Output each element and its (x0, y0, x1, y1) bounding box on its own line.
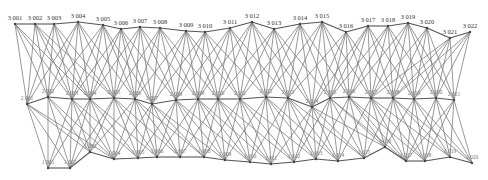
node-1007 (179, 156, 181, 158)
node-1006 (156, 156, 158, 158)
member-edge (48, 25, 103, 97)
node-3008 (159, 27, 161, 29)
chord-edge (436, 98, 454, 100)
node-label: 1 005 (132, 149, 145, 155)
node-label: 3 009 (179, 21, 194, 28)
node-1011 (270, 163, 272, 165)
member-edge (349, 26, 368, 97)
node-label: 1 001 (42, 159, 55, 165)
chord-edge (393, 98, 414, 99)
node-label: 1 007 (174, 148, 187, 154)
node-3017 (367, 25, 369, 27)
node-3019 (407, 22, 409, 24)
node-label: 3 013 (267, 19, 282, 26)
node-3020 (426, 27, 428, 29)
node-label: 1 012 (288, 153, 301, 159)
node-2021 (453, 99, 455, 101)
node-label: 3 006 (114, 19, 129, 26)
node-label: 2 017 (365, 89, 378, 95)
node-label: 3 018 (381, 16, 396, 23)
chord-edge (300, 22, 322, 24)
node-1015 (363, 157, 365, 159)
chord-edge (330, 97, 349, 98)
chord-edge (240, 97, 266, 99)
member-edge (218, 28, 230, 99)
node-1004 (113, 158, 115, 160)
node-3011 (229, 27, 231, 29)
node-label: 1 020 (466, 154, 479, 160)
node-label: 2 005 (108, 89, 121, 95)
node-2002 (47, 96, 49, 98)
chord-edge (225, 160, 250, 162)
node-2006 (134, 98, 136, 100)
node-1001 (47, 167, 49, 169)
node-label: 3 020 (420, 18, 435, 25)
node-label: 3 004 (71, 12, 86, 19)
member-edge (288, 98, 364, 158)
node-1014 (337, 160, 339, 162)
chord-edge (140, 27, 160, 28)
node-label: 2 021 (448, 91, 461, 97)
chord-edge (121, 27, 140, 29)
member-edge (121, 29, 135, 99)
node-1010 (249, 161, 251, 163)
node-label: 1 014 (332, 152, 345, 158)
node-2003 (71, 98, 73, 100)
chord-edge (271, 162, 294, 164)
node-2017 (370, 97, 372, 99)
node-label: 3 005 (96, 15, 111, 22)
node-3013 (273, 28, 275, 30)
node-label: 3 008 (153, 18, 168, 25)
node-3001 (14, 23, 16, 25)
chord-edge (349, 97, 371, 98)
member-edge (186, 31, 198, 99)
node-1013 (315, 158, 317, 160)
node-1012 (293, 161, 295, 163)
node-label: 1 015 (358, 149, 371, 155)
node-label: 3 022 (463, 22, 478, 29)
node-label: 2 018 (387, 89, 400, 95)
node-2018 (392, 97, 394, 99)
node-label: 3 003 (47, 14, 62, 21)
node-label: 3 016 (339, 22, 354, 29)
chord-edge (250, 162, 271, 164)
chord-edge (114, 158, 138, 159)
node-3005 (102, 24, 104, 26)
member-edge (266, 22, 322, 97)
node-label: 2 001 (21, 95, 34, 101)
node-2010 (217, 98, 219, 100)
node-3006 (120, 28, 122, 30)
node-3004 (77, 21, 79, 23)
node-label: 2 020 (430, 89, 443, 95)
node-2008 (175, 99, 177, 101)
node-3012 (251, 21, 253, 23)
chord-edge (54, 22, 78, 24)
node-label: 2 009 (192, 90, 205, 96)
member-edge (15, 24, 27, 104)
node-label: 1 018 (419, 152, 432, 158)
node-label: 3 019 (401, 13, 416, 20)
node-3016 (345, 31, 347, 33)
node-label: 3 015 (315, 12, 330, 19)
chord-edge (138, 157, 157, 158)
node-2020 (435, 97, 437, 99)
chord-edge (186, 31, 205, 32)
node-label: 2 012 (260, 88, 273, 94)
node-label: 2 019 (408, 90, 421, 96)
node-label: 1 003 (84, 143, 97, 149)
node-2005 (113, 97, 115, 99)
chord-edge (316, 159, 338, 161)
node-label: 3 001 (8, 14, 23, 21)
chord-edge (78, 22, 103, 25)
member-edge (274, 29, 288, 98)
node-2011 (239, 98, 241, 100)
chord-edge (388, 23, 408, 26)
node-2001 (26, 103, 28, 105)
node-label: 2 002 (42, 88, 55, 94)
chord-edge (414, 98, 436, 99)
node-3021 (449, 37, 451, 39)
node-1016 (384, 146, 386, 148)
node-label: 2 013 (282, 89, 295, 95)
node-2004 (89, 98, 91, 100)
member-edge (90, 25, 103, 99)
